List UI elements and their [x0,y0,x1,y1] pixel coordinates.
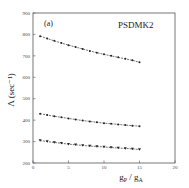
data-point [124,124,126,126]
y-tick-label: 200 [23,161,31,166]
data-point [124,58,126,60]
data-point [131,59,133,61]
data-point [110,55,112,57]
y-tick-label: 800 [23,32,31,37]
x-tick-label: 5 [67,165,70,170]
data-point [96,52,98,54]
data-point [110,123,112,125]
data-point [131,125,133,127]
data-point [68,44,70,46]
data-point [139,125,141,127]
data-point [96,121,98,123]
y-tick-label: 900 [23,11,31,16]
x-tick-label: 10 [102,165,108,170]
data-point [89,50,91,52]
y-tick-label: 600 [23,75,31,80]
series-upper [39,35,140,63]
data-point [75,46,77,48]
x-tick-label: 0 [32,165,35,170]
panel-label: (a) [44,19,53,28]
y-tick-label: 700 [23,54,31,59]
chart: 05101520200300400500600700800900 (a) PSD… [0,0,189,188]
data-point [68,117,70,119]
data-point [138,148,141,151]
data-point [60,116,62,118]
y-axis-label: Λ (sec⁻¹) [6,73,16,107]
data-point [60,42,62,44]
data-point [46,114,48,116]
y-tick-label: 500 [23,96,31,101]
data-point [39,35,41,37]
y-tick-label: 300 [23,139,31,144]
data-point [39,113,41,115]
plot-frame [33,13,175,163]
axis-ticks: 05101520200300400500600700800900 [23,11,179,170]
x-axis-label: gP / gA [119,172,143,183]
data-point [89,120,91,122]
series-lower [39,139,141,151]
x-tick-label: 20 [173,165,179,170]
data-point [46,38,48,40]
x-tick-label: 15 [137,165,143,170]
chart-title: PSDMK2 [118,20,154,30]
data-point [75,119,77,121]
data-point [82,48,84,50]
data-point [103,122,105,124]
data-point [117,56,119,58]
data-point [53,115,55,117]
data-point [103,53,105,55]
data-point [82,120,84,122]
data-series [39,35,141,151]
data-point [139,61,141,63]
data-point [53,40,55,42]
series-middle [39,113,140,127]
data-point [117,123,119,125]
y-tick-label: 400 [23,118,31,123]
